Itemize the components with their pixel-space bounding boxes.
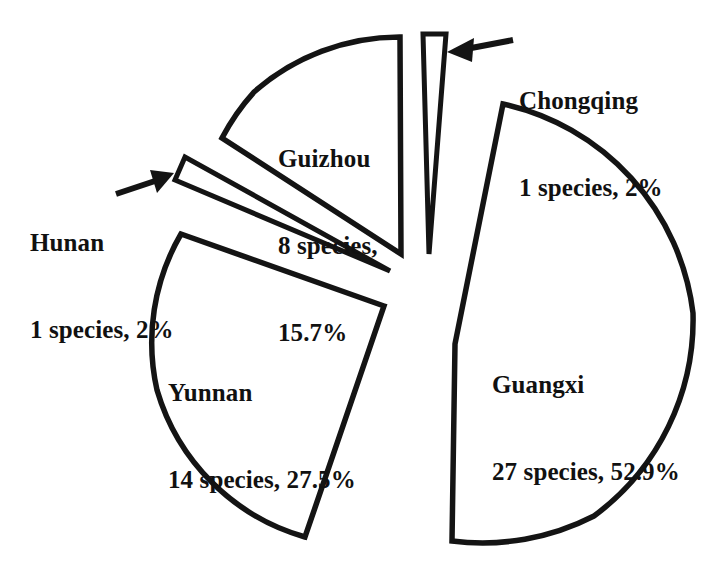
pie-label-hunan: Hunan 1 species, 2%	[30, 170, 174, 402]
pie-label-guangxi: Guangxi 27 species, 52.9%	[492, 312, 680, 544]
pie-chart-figure: Guizhou 8 species, 15.7% Yunnan 14 speci…	[0, 0, 725, 561]
pie-label-guizhou-count: 8 species,	[278, 231, 378, 260]
pie-label-yunnan: Yunnan 14 species, 27.5%	[168, 320, 356, 552]
pie-label-chongqing-value: 1 species, 2%	[519, 173, 663, 202]
pie-label-chongqing: Chongqing 1 species, 2%	[519, 28, 663, 260]
pie-label-yunnan-value: 14 species, 27.5%	[168, 465, 356, 494]
pie-label-guangxi-name: Guangxi	[492, 370, 680, 399]
chongqing-callout-arrow	[447, 38, 513, 62]
pie-label-hunan-value: 1 species, 2%	[30, 315, 174, 344]
pie-label-guangxi-value: 27 species, 52.9%	[492, 457, 680, 486]
pie-label-guizhou-name: Guizhou	[278, 144, 378, 173]
pie-label-chongqing-name: Chongqing	[519, 86, 663, 115]
pie-label-hunan-name: Hunan	[30, 228, 174, 257]
pie-slice-chongqing[interactable]	[423, 34, 446, 254]
pie-label-yunnan-name: Yunnan	[168, 378, 356, 407]
